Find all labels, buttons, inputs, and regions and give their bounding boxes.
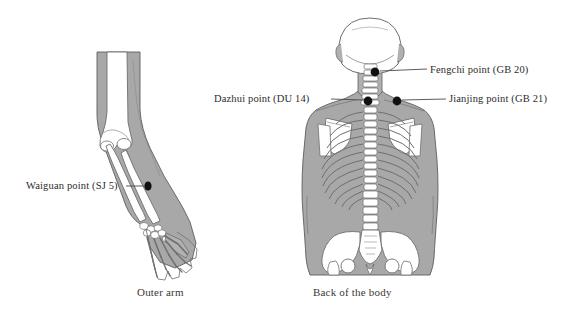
back-of-body-caption: Back of the body: [313, 286, 392, 298]
dazhui-point-marker[interactable]: [364, 97, 373, 106]
outer-arm-caption: Outer arm: [137, 286, 184, 298]
dazhui-point-label: Dazhui point (DU 14): [214, 93, 309, 104]
right-greater-trochanter: [401, 261, 412, 275]
left-femoral-head: [341, 259, 355, 273]
fengchi-point-label: Fengchi point (GB 20): [430, 64, 529, 75]
back-of-body-figure: [302, 18, 446, 275]
jianjing-point-label: Jianjing point (GB 21): [449, 93, 547, 104]
anatomy-illustration: [0, 0, 573, 314]
left-greater-trochanter: [328, 261, 339, 275]
jianjing-point-marker[interactable]: [393, 97, 402, 106]
jianjing-leader-line: [402, 99, 446, 100]
right-femoral-head: [385, 259, 399, 273]
vertebral-column: [363, 107, 378, 230]
waiguan-point-marker[interactable]: [144, 181, 151, 190]
right-humerus-stump: [409, 124, 422, 156]
outer-arm-figure: [97, 52, 197, 280]
diagram-page: Waiguan point (SJ 5) Fengchi point (GB 2…: [0, 0, 573, 314]
waiguan-point-label: Waiguan point (SJ 5): [26, 180, 118, 191]
fengchi-point-marker[interactable]: [371, 68, 380, 77]
humerus-trochlea: [117, 139, 131, 150]
